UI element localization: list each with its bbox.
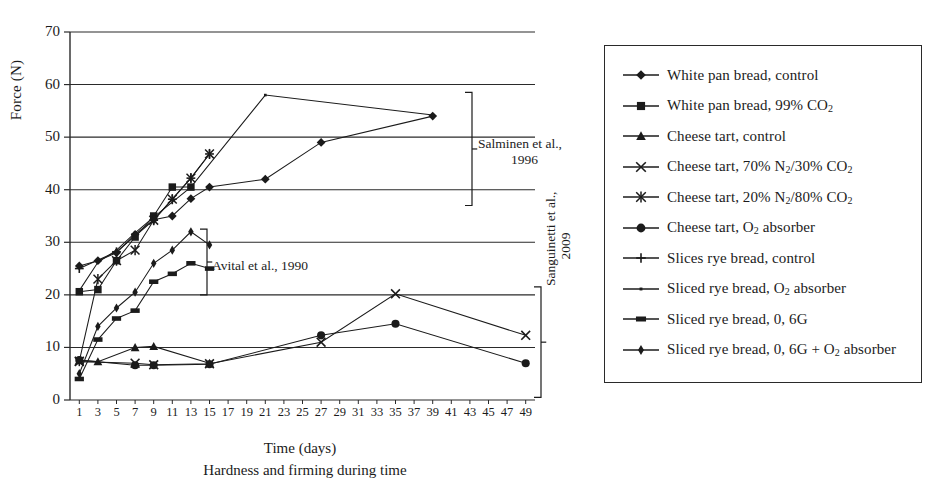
legend-symbol: [638, 345, 644, 355]
series-marker-9: [95, 322, 100, 331]
legend-item-0[interactable]: White pan bread, control: [619, 60, 911, 91]
series-1: [76, 183, 195, 295]
x-tick-label-29: 29: [330, 406, 350, 418]
legend-symbol: [637, 102, 645, 110]
x-tick-label-5: 5: [107, 406, 127, 418]
legend-item-8[interactable]: Sliced rye bread, 0, 6G: [619, 304, 911, 335]
figure-root: Force (N) 010203040506070 13579111315171…: [0, 0, 934, 493]
x-tick-label-33: 33: [367, 406, 387, 418]
legend-marker-triangle-icon: [619, 126, 663, 146]
legend-item-6[interactable]: Slices rye bread, control: [619, 243, 911, 274]
series-4: [75, 149, 214, 366]
bracket-sanguinetti-path: [534, 287, 541, 397]
legend-box: White pan bread, controlWhite pan bread,…: [604, 45, 922, 383]
x-tick-label-45: 45: [479, 406, 499, 418]
legend-symbol: [637, 223, 646, 232]
series-marker-9: [188, 227, 193, 236]
annotation-avital: Avital et al., 1990: [212, 258, 342, 274]
legend-item-2[interactable]: Cheese tart, control: [619, 121, 911, 152]
series-marker-5: [205, 360, 213, 368]
series-marker-8: [112, 316, 121, 321]
legend-marker-asterisk-icon: [619, 187, 663, 207]
x-tick-label-11: 11: [162, 406, 182, 418]
legend-marker-diamond-icon: [619, 65, 663, 85]
x-tick-label-17: 17: [218, 406, 238, 418]
legend-label-2: Cheese tart, control: [663, 128, 786, 145]
series-line-6: [79, 154, 209, 269]
series-9: [77, 227, 213, 378]
legend-label-1: White pan bread, 99% CO2: [663, 97, 833, 114]
series-0: [75, 112, 437, 271]
x-tick-label-23: 23: [274, 406, 294, 418]
series-marker-7: [190, 186, 193, 189]
legend-item-7[interactable]: Sliced rye bread, O2 absorber: [619, 274, 911, 305]
bracket-salminen: [465, 92, 477, 205]
legend-marker-cross-x-icon: [619, 157, 663, 177]
legend-marker-thick-dash-icon: [619, 309, 663, 329]
series-marker-8: [93, 337, 102, 342]
series-marker-0: [317, 138, 326, 147]
plot-canvas: [0, 0, 600, 493]
x-tick-label-1: 1: [69, 406, 89, 418]
annotation-sanguinetti: Sanguinetti et al., 2009: [543, 166, 573, 286]
x-tick-label-25: 25: [293, 406, 313, 418]
series-marker-8: [149, 279, 158, 284]
series-marker-5: [150, 361, 158, 369]
series-marker-5: [522, 359, 530, 367]
annotation-avital-line1: Avital et al., 1990: [212, 258, 308, 273]
legend-item-5[interactable]: Cheese tart, O2 absorber: [619, 213, 911, 244]
annotation-salminen-line2: 1996: [478, 152, 593, 168]
series-marker-9: [114, 303, 119, 312]
series-6: [75, 150, 214, 273]
series-marker-5: [317, 331, 325, 339]
x-tick-label-7: 7: [125, 406, 145, 418]
legend-marker-line-dot-icon: [619, 279, 663, 299]
x-tick-label-49: 49: [516, 406, 536, 418]
bracket-salminen-path: [465, 92, 472, 205]
legend-item-1[interactable]: White pan bread, 99% CO2: [619, 91, 911, 122]
legend-label-0: White pan bread, control: [663, 67, 819, 84]
legend-marker-plus-icon: [619, 248, 663, 268]
legend-item-3[interactable]: Cheese tart, 70% N2/30% CO2: [619, 152, 911, 183]
annotation-sanguinetti-line2: 2009: [558, 166, 573, 286]
x-tick-label-35: 35: [386, 406, 406, 418]
annotation-sanguinetti-line1: Sanguinetti et al.,: [543, 192, 558, 286]
series-marker-7: [134, 232, 137, 235]
legend-label-8: Sliced rye bread, 0, 6G: [663, 311, 808, 328]
legend-label-9: Sliced rye bread, 0, 6G + O2 absorber: [663, 341, 896, 358]
legend-item-4[interactable]: Cheese tart, 20% N2/80% CO2: [619, 182, 911, 213]
series-2: [75, 342, 214, 367]
x-tick-label-37: 37: [404, 406, 424, 418]
series-marker-7: [78, 289, 81, 292]
series-marker-7: [431, 114, 434, 117]
annotation-salminen-line1: Salminen et al.,: [478, 136, 562, 151]
figure-caption: Hardness and firming during time: [110, 462, 500, 479]
x-tick-label-41: 41: [441, 406, 461, 418]
x-tick-label-15: 15: [200, 406, 220, 418]
series-marker-7: [115, 249, 118, 252]
series-line-0: [79, 116, 432, 266]
annotation-salminen: Salminen et al., 1996: [478, 136, 593, 168]
legend-marker-square-icon: [619, 96, 663, 116]
legend-label-4: Cheese tart, 20% N2/80% CO2: [663, 189, 853, 206]
series-line-9: [79, 232, 209, 374]
legend-label-6: Slices rye bread, control: [663, 250, 815, 267]
legend-item-9[interactable]: Sliced rye bread, 0, 6G + O2 absorber: [619, 335, 911, 366]
legend-symbol: [636, 70, 646, 80]
x-tick-label-3: 3: [88, 406, 108, 418]
x-axis-title: Time (days): [150, 440, 450, 457]
x-tick-label-43: 43: [460, 406, 480, 418]
series-marker-8: [186, 261, 195, 266]
legend-label-7: Sliced rye bread, O2 absorber: [663, 280, 846, 297]
series-marker-7: [97, 261, 100, 264]
legend-label-5: Cheese tart, O2 absorber: [663, 219, 815, 236]
x-tick-label-27: 27: [311, 406, 331, 418]
x-tick-label-19: 19: [237, 406, 257, 418]
x-tick-label-39: 39: [423, 406, 443, 418]
series-marker-5: [75, 356, 83, 364]
series-marker-0: [261, 175, 270, 184]
legend-symbol: [640, 287, 643, 290]
series-marker-1: [169, 183, 176, 190]
series-marker-9: [170, 246, 175, 255]
legend-label-3: Cheese tart, 70% N2/30% CO2: [663, 158, 853, 175]
